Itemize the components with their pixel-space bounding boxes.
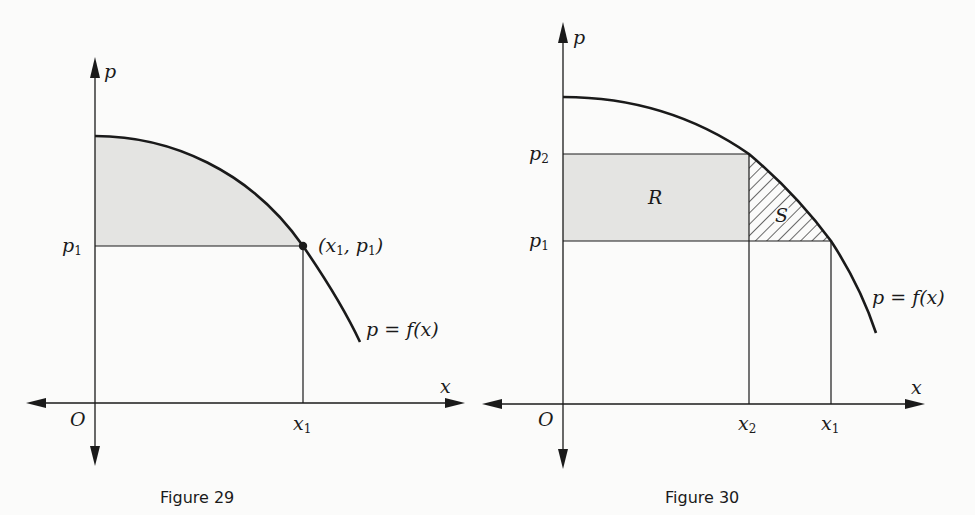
x-axis-label: x bbox=[440, 375, 451, 397]
curve-equation-label: p = f(x) bbox=[872, 286, 945, 308]
figure-29: p x O p1 x1 (x1, p1) p = f(x) Figure 29 bbox=[26, 57, 465, 507]
p-axis-label: p bbox=[573, 26, 585, 48]
origin-label: O bbox=[538, 408, 554, 430]
p2-tick-label: p2 bbox=[529, 142, 549, 166]
x-axis-label: x bbox=[911, 376, 922, 398]
p-axis-label: p bbox=[104, 60, 116, 82]
x1-tick-label: x1 bbox=[293, 412, 311, 436]
p-axis-up-arrow-icon bbox=[90, 57, 100, 78]
x2-tick-label: x2 bbox=[738, 412, 756, 436]
p-axis-down-arrow-icon bbox=[90, 446, 100, 466]
p1-tick-label: p1 bbox=[62, 234, 82, 258]
consumer-surplus-shaded-region bbox=[95, 136, 303, 246]
p1-tick-label: p1 bbox=[529, 229, 549, 253]
point-x1-p1-dot bbox=[299, 242, 307, 250]
figures-canvas: p x O p1 x1 (x1, p1) p = f(x) Figure 29 … bbox=[0, 0, 975, 515]
x-axis-left-arrow-icon bbox=[482, 399, 502, 409]
x-axis-right-arrow-icon bbox=[905, 399, 925, 409]
figure-30: p x O p2 p1 x2 x1 R S p = f(x) Figure 30 bbox=[482, 22, 945, 507]
region-R-label: R bbox=[647, 186, 662, 208]
figure-29-caption: Figure 29 bbox=[160, 488, 234, 507]
point-x1-p1-label: (x1, p1) bbox=[318, 234, 383, 258]
x-axis-left-arrow-icon bbox=[26, 398, 46, 408]
p-axis-down-arrow-icon bbox=[558, 449, 568, 469]
x-axis-right-arrow-icon bbox=[445, 398, 465, 408]
x1-tick-label: x1 bbox=[821, 412, 839, 436]
origin-label: O bbox=[70, 408, 86, 430]
figure-30-caption: Figure 30 bbox=[665, 488, 739, 507]
curve-equation-label: p = f(x) bbox=[366, 318, 439, 340]
region-S-hatched bbox=[749, 154, 831, 241]
p-axis-up-arrow-icon bbox=[558, 22, 568, 43]
region-S-label: S bbox=[775, 204, 788, 226]
